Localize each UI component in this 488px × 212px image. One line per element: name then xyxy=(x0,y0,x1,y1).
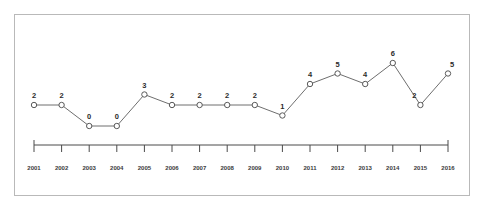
data-point-label: 0 xyxy=(107,112,127,121)
x-axis-tick-label: 2011 xyxy=(295,164,325,172)
x-axis-tick-label: 2001 xyxy=(19,164,49,172)
x-axis-tick-label: 2009 xyxy=(240,164,270,172)
data-point-label: 1 xyxy=(272,102,292,111)
x-axis-tick-label: 2008 xyxy=(212,164,242,172)
data-point-label: 4 xyxy=(355,70,375,79)
x-axis-tick-label: 2002 xyxy=(47,164,77,172)
x-axis-tick-label: 2006 xyxy=(157,164,187,172)
data-point-marker xyxy=(225,102,230,107)
x-axis-tick-label: 2010 xyxy=(267,164,297,172)
x-axis-tick-label: 2005 xyxy=(129,164,159,172)
x-axis-tick-label: 2014 xyxy=(378,164,408,172)
data-point-marker xyxy=(252,102,257,107)
line-chart-plot xyxy=(0,0,488,212)
data-point-marker xyxy=(142,92,147,97)
data-point-label: 2 xyxy=(52,91,72,100)
data-point-label: 2 xyxy=(245,91,265,100)
data-point-marker xyxy=(280,113,285,118)
x-axis-tick-label: 2013 xyxy=(350,164,380,172)
data-point-marker xyxy=(197,102,202,107)
data-point-label: 2 xyxy=(404,91,424,100)
data-point-marker xyxy=(363,81,368,86)
data-point-label: 6 xyxy=(383,49,403,58)
data-point-marker xyxy=(59,102,64,107)
data-point-label: 2 xyxy=(24,91,44,100)
x-axis-tick-label: 2016 xyxy=(433,164,463,172)
data-point-marker xyxy=(418,102,423,107)
x-axis-tick-label: 2003 xyxy=(74,164,104,172)
data-point-label: 2 xyxy=(162,91,182,100)
data-point-marker xyxy=(87,123,92,128)
x-axis-tick-label: 2007 xyxy=(185,164,215,172)
data-point-label: 5 xyxy=(328,60,348,69)
data-point-marker xyxy=(114,123,119,128)
data-point-label: 4 xyxy=(300,70,320,79)
chart-figure: 2200322221454625 20012002200320042005200… xyxy=(0,0,488,212)
data-point-marker xyxy=(31,102,36,107)
x-axis-tick-label: 2015 xyxy=(405,164,435,172)
x-axis-tick-label: 2004 xyxy=(102,164,132,172)
axis-group xyxy=(34,140,448,152)
data-point-label: 3 xyxy=(134,81,154,90)
data-point-label: 0 xyxy=(79,112,99,121)
data-point-label: 5 xyxy=(442,60,462,69)
x-axis-ticks xyxy=(34,140,448,152)
x-axis-tick-label: 2012 xyxy=(323,164,353,172)
data-point-label: 2 xyxy=(217,91,237,100)
data-point-marker xyxy=(307,81,312,86)
data-point-marker xyxy=(335,71,340,76)
data-point-marker xyxy=(445,71,450,76)
data-point-label: 2 xyxy=(190,91,210,100)
data-point-marker xyxy=(169,102,174,107)
data-point-marker xyxy=(390,60,395,65)
